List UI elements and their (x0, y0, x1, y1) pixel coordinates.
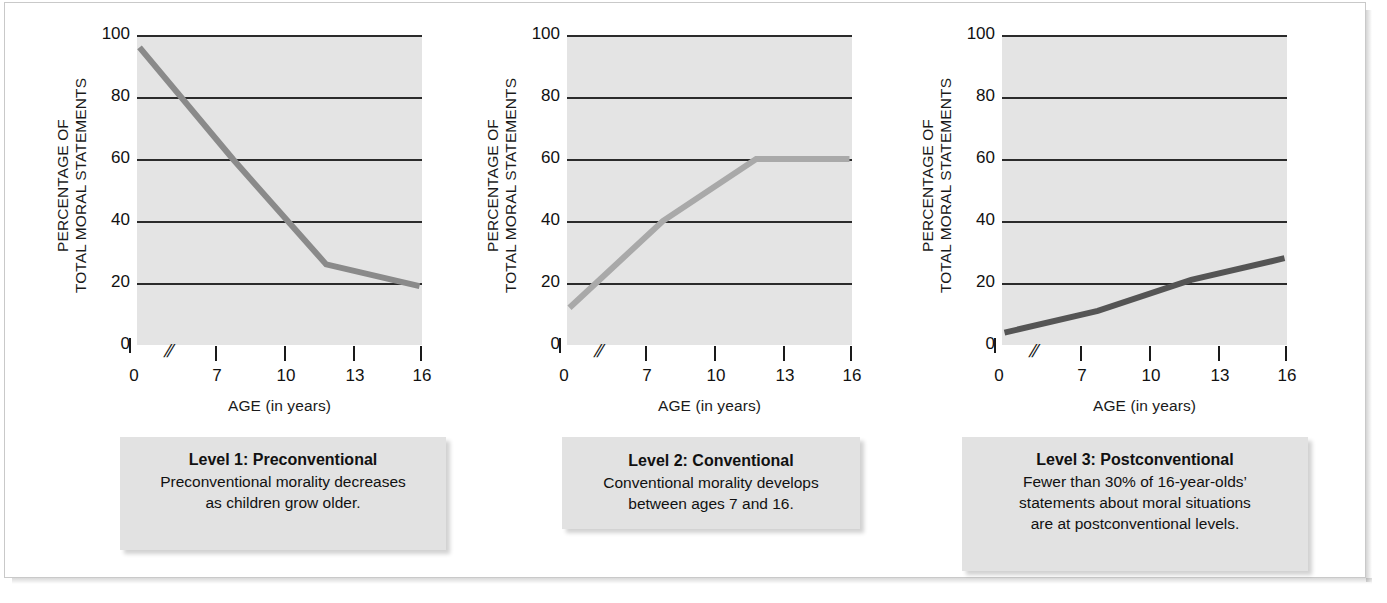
y-axis-origin-tick (129, 338, 131, 353)
x-tick-label-0: 0 (111, 366, 157, 386)
caption-body: Preconventional morality decreases as ch… (130, 471, 436, 513)
chart-level-2: PERCENTAGE OF TOTAL MORAL STATEMENTS 100… (450, 18, 900, 418)
x-tick-10 (284, 346, 286, 361)
plot-wrap: 100 80 60 40 20 0 // 0 7 10 13 16 AGE (i… (1002, 35, 1287, 345)
figure-shadow-right (1366, 10, 1372, 582)
chart-level-3: PERCENTAGE OF TOTAL MORAL STATEMENTS 100… (880, 18, 1330, 418)
series-line-level-3 (1002, 35, 1287, 345)
x-tick-label-16: 16 (399, 366, 445, 386)
y-tick-label-20: 20 (949, 272, 995, 292)
x-tick-label-13: 13 (762, 366, 808, 386)
x-tick-label-10: 10 (263, 366, 309, 386)
x-tick-16 (850, 346, 852, 361)
plot-wrap: 100 80 60 40 20 0 // 0 7 10 13 16 AGE (i… (567, 35, 852, 345)
y-tick-label-60: 60 (949, 148, 995, 168)
x-axis-title: AGE (in years) (567, 397, 852, 415)
x-tick-16 (420, 346, 422, 361)
y-tick-label-40: 40 (84, 210, 130, 230)
x-tick-label-7: 7 (1059, 366, 1105, 386)
caption-body: Conventional morality develops between a… (572, 472, 850, 514)
x-axis-title: AGE (in years) (137, 397, 422, 415)
y-tick-label-40: 40 (514, 210, 560, 230)
caption-box-level-1: Level 1: Preconventional Preconventional… (120, 437, 446, 550)
x-tick-10 (714, 346, 716, 361)
x-tick-label-16: 16 (1264, 366, 1310, 386)
caption-title: Level 3: Postconventional (972, 449, 1298, 470)
x-tick-16 (1285, 346, 1287, 361)
caption-title: Level 2: Conventional (572, 450, 850, 471)
y-tick-label-60: 60 (84, 148, 130, 168)
x-tick-label-10: 10 (693, 366, 739, 386)
y-tick-label-100: 100 (514, 24, 560, 44)
y-axis-origin-tick (994, 338, 996, 353)
y-tick-label-80: 80 (514, 86, 560, 106)
y-tick-label-0: 0 (949, 334, 995, 354)
chart-level-1: PERCENTAGE OF TOTAL MORAL STATEMENTS 100… (20, 18, 470, 418)
chart-panel-level-2: PERCENTAGE OF TOTAL MORAL STATEMENTS 100… (450, 0, 900, 576)
figure-shadow-bottom (12, 578, 1372, 584)
y-tick-label-0: 0 (84, 334, 130, 354)
series-line-level-1 (137, 35, 422, 345)
caption-box-level-3: Level 3: Postconventional Fewer than 30%… (962, 437, 1308, 571)
caption-box-level-2: Level 2: Conventional Conventional moral… (562, 437, 860, 529)
x-tick-10 (1149, 346, 1151, 361)
y-axis-origin-tick (559, 338, 561, 353)
y-tick-label-100: 100 (84, 24, 130, 44)
x-tick-label-13: 13 (332, 366, 378, 386)
chart-panel-level-3: PERCENTAGE OF TOTAL MORAL STATEMENTS 100… (880, 0, 1330, 576)
x-tick-label-13: 13 (1197, 366, 1243, 386)
x-tick-13 (1218, 346, 1220, 361)
y-tick-label-100: 100 (949, 24, 995, 44)
y-tick-label-80: 80 (84, 86, 130, 106)
x-tick-label-0: 0 (976, 366, 1022, 386)
x-axis-title: AGE (in years) (1002, 397, 1287, 415)
x-tick-label-10: 10 (1128, 366, 1174, 386)
x-tick-13 (353, 346, 355, 361)
x-tick-7 (645, 346, 647, 361)
x-tick-label-16: 16 (829, 366, 875, 386)
series-line-level-2 (567, 35, 852, 345)
x-tick-label-7: 7 (624, 366, 670, 386)
y-tick-label-20: 20 (84, 272, 130, 292)
x-tick-13 (783, 346, 785, 361)
x-tick-label-0: 0 (541, 366, 587, 386)
x-tick-label-7: 7 (194, 366, 240, 386)
y-tick-label-0: 0 (514, 334, 560, 354)
caption-title: Level 1: Preconventional (130, 449, 436, 470)
y-tick-label-20: 20 (514, 272, 560, 292)
plot-wrap: 100 80 60 40 20 0 // 0 7 10 13 16 AGE (i… (137, 35, 422, 345)
y-tick-label-60: 60 (514, 148, 560, 168)
caption-body: Fewer than 30% of 16-year-olds’ statemen… (972, 471, 1298, 534)
chart-panel-level-1: PERCENTAGE OF TOTAL MORAL STATEMENTS 100… (20, 0, 470, 576)
y-tick-label-80: 80 (949, 86, 995, 106)
y-tick-label-40: 40 (949, 210, 995, 230)
x-tick-7 (215, 346, 217, 361)
x-tick-7 (1080, 346, 1082, 361)
